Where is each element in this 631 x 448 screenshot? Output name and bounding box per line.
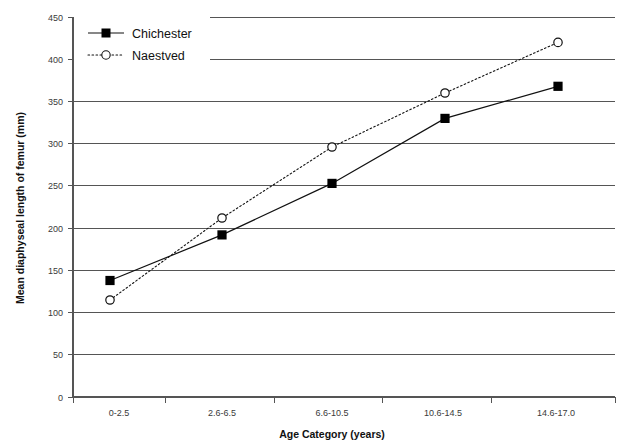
y-tick-label: 0 — [58, 393, 63, 403]
x-axis-ticks — [73, 397, 615, 403]
naestved-data-point — [218, 214, 226, 222]
y-tick-label: 100 — [48, 308, 63, 318]
naestved-data-point — [554, 38, 562, 46]
chart-legend: Chichester Naestved — [80, 14, 210, 66]
x-category-label: 14.6-17.0 — [537, 408, 575, 418]
x-axis-category-labels: 0-2.5 2.6-6.5 6.6-10.5 10.6-14.5 14.6-17… — [109, 408, 575, 418]
y-axis-ticks — [68, 17, 73, 397]
naestved-data-point — [106, 296, 114, 304]
y-tick-label: 450 — [48, 13, 63, 23]
y-tick-label: 200 — [48, 224, 63, 234]
x-category-label: 0-2.5 — [109, 408, 130, 418]
legend-label: Chichester — [132, 27, 192, 41]
y-tick-label: 250 — [48, 181, 63, 191]
x-axis-title: Age Category (years) — [279, 428, 385, 440]
y-tick-label: 150 — [48, 266, 63, 276]
plot-area-background — [73, 17, 615, 397]
chichester-data-point — [217, 230, 226, 239]
chichester-data-point — [440, 114, 449, 123]
naestved-data-point — [441, 89, 449, 97]
chichester-data-point — [105, 276, 114, 285]
y-axis-title: Mean diaphyseal length of femur (mm) — [14, 112, 26, 304]
line-chart-canvas: 450 400 350 300 250 200 150 100 50 0 0-2… — [0, 0, 631, 448]
naestved-data-point — [328, 143, 336, 151]
y-tick-label: 400 — [48, 55, 63, 65]
chichester-data-point — [327, 179, 336, 188]
y-tick-label: 50 — [53, 350, 63, 360]
x-category-label: 2.6-6.5 — [208, 408, 236, 418]
x-category-label: 6.6-10.5 — [315, 408, 348, 418]
open-circle-icon — [102, 51, 110, 59]
legend-label: Naestved — [132, 49, 185, 63]
y-tick-label: 350 — [48, 97, 63, 107]
chichester-data-point — [553, 82, 562, 91]
x-category-label: 10.6-14.5 — [424, 408, 462, 418]
y-tick-label: 300 — [48, 139, 63, 149]
y-axis-tick-labels: 450 400 350 300 250 200 150 100 50 0 — [48, 13, 63, 403]
filled-square-icon — [102, 29, 111, 38]
chart-figure: 450 400 350 300 250 200 150 100 50 0 0-2… — [0, 0, 631, 448]
